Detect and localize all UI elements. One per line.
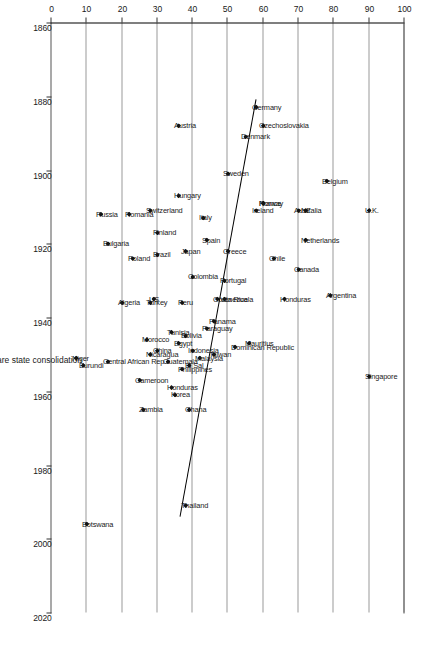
- x-axis-tick-label: 1900: [33, 170, 52, 180]
- x-axis-tick-label: 1880: [33, 96, 52, 106]
- x-axis-tick-label: 1920: [33, 243, 52, 253]
- y-axis-tick-label: 10: [82, 3, 91, 13]
- data-point-label: Germany: [251, 102, 280, 111]
- x-axis-title: Year of welfare state consolidation: [0, 354, 82, 364]
- data-point-label: Burundi: [78, 360, 102, 369]
- data-point-label: Colombia: [188, 271, 218, 280]
- data-point-label: Argentina: [325, 290, 355, 299]
- data-point-label: Costa Rica: [212, 294, 247, 303]
- y-axis-tick-label: 90: [364, 3, 373, 13]
- data-point-label: Japan: [181, 246, 200, 255]
- data-point-label: Italy: [198, 212, 211, 221]
- y-axis-tick-label: 70: [293, 3, 302, 13]
- data-point-label: Peru: [177, 297, 192, 306]
- y-axis-tick: [85, 17, 86, 22]
- data-point-label: Central African Rep.: [103, 356, 166, 365]
- data-point-label: Thailand: [181, 500, 208, 509]
- data-point-label: Paraguay: [202, 323, 232, 332]
- data-point-label: Portugal: [219, 275, 245, 284]
- x-axis-tick-label: 2000: [33, 538, 52, 548]
- gridline-percent: [191, 22, 192, 612]
- data-point-label: Finland: [152, 227, 175, 236]
- y-axis-tick: [403, 17, 404, 22]
- y-axis-tick-label: 20: [117, 3, 126, 13]
- data-point-label: Czechoslovakia: [258, 120, 308, 129]
- x-axis-tick-label: 2020: [33, 612, 52, 622]
- data-point-label: Honduras: [279, 294, 310, 303]
- data-point-label: Poland: [128, 253, 150, 262]
- y-axis-tick: [156, 17, 157, 22]
- x-axis-tick-label: 1960: [33, 391, 52, 401]
- data-point-label: Cameroon: [135, 375, 168, 384]
- y-axis-tick: [368, 17, 369, 22]
- data-point-label: Singapore: [364, 371, 396, 380]
- plot-area: 1860188019001920194019601980200020200102…: [51, 22, 404, 612]
- data-point-label: Botswana: [82, 519, 113, 528]
- data-point-label: Canada: [294, 264, 319, 273]
- gridline-percent: [156, 22, 157, 612]
- data-point-label: NZ: [301, 205, 311, 214]
- gridline-percent: [332, 22, 333, 612]
- y-axis-tick-label: 30: [152, 3, 161, 13]
- y-axis-tick: [297, 17, 298, 22]
- data-point-label: Bulgaria: [103, 238, 129, 247]
- data-point-label: Sweden: [223, 168, 249, 177]
- y-axis-tick-label: 50: [223, 3, 232, 13]
- y-axis-tick: [332, 17, 333, 22]
- gridline-percent: [121, 22, 122, 612]
- data-point-label: Spain: [202, 235, 220, 244]
- data-point-label: Dominican Republic: [230, 342, 293, 351]
- y-axis-tick-label: 80: [329, 3, 338, 13]
- data-point-label: Philippines: [177, 364, 211, 373]
- x-axis-tick-label: 1860: [33, 22, 52, 32]
- data-point-label: Ireland: [251, 205, 273, 214]
- data-point-label: Brazil: [152, 249, 170, 258]
- data-point-label: Algeria: [117, 297, 139, 306]
- chart-screenshot: 1860188019001920194019601980200020200102…: [0, 0, 421, 666]
- data-point-label: Belgium: [322, 176, 348, 185]
- y-axis-tick-label: 100: [397, 3, 411, 13]
- y-axis-tick: [262, 17, 263, 22]
- data-point-label: Russia: [96, 209, 118, 218]
- gridline-percent: [368, 22, 369, 612]
- y-axis-tick-label: 0: [49, 3, 54, 13]
- data-point-label: Greece: [223, 246, 246, 255]
- data-point-label: Korea: [170, 389, 189, 398]
- data-point-label: Ghana: [184, 404, 205, 413]
- y-axis-tick: [227, 17, 228, 22]
- data-point-label: U.K.: [364, 205, 378, 214]
- gridline-percent: [297, 22, 298, 612]
- plot-top-edge: [403, 22, 404, 613]
- rotated-chart-canvas: 1860188019001920194019601980200020200102…: [0, 0, 421, 666]
- data-point-label: Romania: [124, 209, 153, 218]
- data-point-label: Turkey: [145, 297, 166, 306]
- data-point-label: Hungary: [174, 190, 201, 199]
- data-point-label: Denmark: [241, 131, 270, 140]
- trend-line: [179, 99, 256, 516]
- x-axis-tick-label: 1980: [33, 465, 52, 475]
- data-point-label: Netherlands: [301, 235, 339, 244]
- y-axis-tick-label: 40: [188, 3, 197, 13]
- y-axis-tick: [50, 17, 51, 22]
- data-point-label: Chile: [269, 253, 285, 262]
- x-axis-tick-label: 1940: [33, 317, 52, 327]
- y-axis-tick: [191, 17, 192, 22]
- y-axis-tick-label: 60: [258, 3, 267, 13]
- data-point-label: Morocco: [142, 334, 169, 343]
- data-point-label: Austria: [174, 120, 196, 129]
- y-axis-tick: [121, 17, 122, 22]
- data-point-label: Zambia: [138, 404, 162, 413]
